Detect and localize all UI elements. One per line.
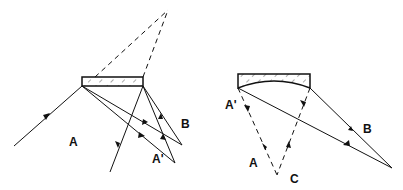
concave-mirror [238,74,310,88]
label-a-prime: A' [152,152,164,166]
label-c: C [290,172,299,186]
label-a-right: A [249,156,258,170]
virtual-ray-2 [143,10,168,77]
optics-diagram [0,0,403,190]
label-b-right: B [363,122,372,136]
label-b: B [181,117,190,131]
left-diagram [14,10,182,172]
label-a: A [69,135,78,149]
plane-mirror [82,77,143,86]
label-a-prime-right: A' [225,98,237,112]
virtual-ray-1 [95,10,168,77]
